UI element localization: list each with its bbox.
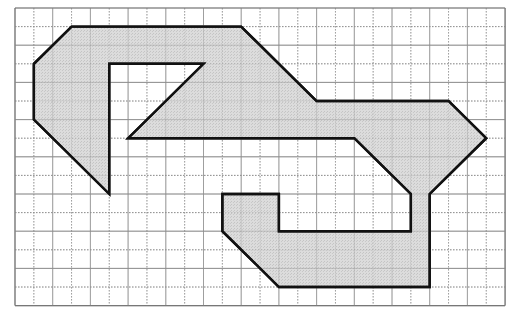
- grid-polygon-figure: [0, 0, 519, 313]
